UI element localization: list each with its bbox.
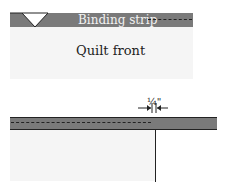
fold-triangle-icon (10, 12, 55, 30)
measurement-arrows-icon (138, 103, 168, 113)
quilt-front-panel-bottom (10, 130, 156, 181)
binding-strip-bottom (10, 117, 217, 130)
stitch-line-top (148, 19, 192, 20)
stitch-line-bottom (11, 122, 151, 123)
binding-strip-label: Binding strip (78, 13, 157, 27)
quilt-front-label: Quilt front (76, 43, 145, 58)
quilt-edge-line (155, 130, 156, 182)
